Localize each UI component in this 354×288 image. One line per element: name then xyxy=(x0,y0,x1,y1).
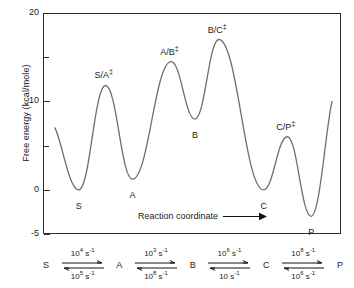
y-tick-label-0: 0 xyxy=(34,184,39,194)
curve-label-A: A xyxy=(129,191,135,200)
reverse-rate-C: 106 s-1 xyxy=(291,273,315,281)
scheme-step-C-to-P: 108 s-1106 s-1 xyxy=(276,250,330,281)
curve-label-B/C-dagger: B/C‡ xyxy=(208,26,227,35)
kinetic-scheme: S104 s-1105 s-1A103 s-1108 s-1B106 s-110… xyxy=(43,243,343,288)
curve-label-P: P xyxy=(308,228,314,237)
curve-label-S/A-dagger: S/A‡ xyxy=(95,71,113,80)
scheme-species-S: S xyxy=(43,261,49,271)
y-tick-label-10: 10 xyxy=(29,95,39,105)
scheme-species-P: P xyxy=(337,261,343,271)
scheme-species-C: C xyxy=(263,261,270,271)
y-tick-10 xyxy=(44,101,50,102)
y-tick--5 xyxy=(44,234,50,235)
curve-label-B: B xyxy=(192,131,198,140)
forward-rate-S: 104 s-1 xyxy=(71,250,95,258)
reaction-coordinate-annotation: Reaction coordinate xyxy=(138,211,267,221)
equilibrium-arrows-icon xyxy=(280,260,326,271)
reverse-rate-A: 108 s-1 xyxy=(144,273,168,281)
scheme-step-A-to-B: 103 s-1108 s-1 xyxy=(129,250,183,281)
y-axis-tick-labels: 20100-5 xyxy=(12,13,39,234)
curve-label-A/B-dagger: A/B‡ xyxy=(160,48,178,57)
scheme-species-A: A xyxy=(116,261,122,271)
energy-diagram-figure: Free energy (kcal/mole) 20100-5 Reaction… xyxy=(0,0,354,288)
reaction-coordinate-label: Reaction coordinate xyxy=(138,211,218,221)
curve-label-S: S xyxy=(76,202,82,211)
y-tick-0 xyxy=(44,190,50,191)
scheme-step-S-to-A: 104 s-1105 s-1 xyxy=(56,250,110,281)
right-arrow-icon xyxy=(223,212,267,221)
scheme-species-B: B xyxy=(190,261,196,271)
equilibrium-arrows-icon xyxy=(60,260,106,271)
forward-rate-B: 106 s-1 xyxy=(217,250,241,258)
free-energy-curve xyxy=(43,13,341,234)
curve-label-C/P-dagger: C/P‡ xyxy=(276,123,295,132)
plot-area: Reaction coordinate SS/A‡AA/B‡BB/C‡CC/P‡… xyxy=(43,13,341,234)
forward-rate-A: 103 s-1 xyxy=(144,250,168,258)
forward-rate-C: 108 s-1 xyxy=(291,250,315,258)
y-tick-20 xyxy=(44,13,50,14)
reverse-rate-B: 10 s-1 xyxy=(219,273,239,281)
y-tick-label--5: -5 xyxy=(31,228,39,238)
y-tick-5 xyxy=(44,146,49,147)
equilibrium-arrows-icon xyxy=(133,260,179,271)
y-tick-label-20: 20 xyxy=(29,7,39,17)
scheme-step-B-to-C: 106 s-110 s-1 xyxy=(202,250,256,281)
y-tick-15 xyxy=(44,57,49,58)
curve-label-C: C xyxy=(261,202,268,211)
reverse-rate-S: 105 s-1 xyxy=(71,273,95,281)
equilibrium-arrows-icon xyxy=(206,260,252,271)
